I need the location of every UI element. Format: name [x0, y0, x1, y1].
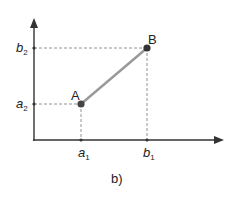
x-tick-a1: a1 [78, 146, 90, 159]
axes [33, 26, 215, 141]
point-b-label: B [148, 33, 157, 46]
diagram-canvas [0, 0, 231, 197]
figure-caption: b) [111, 172, 123, 185]
y-tick-a2: a2 [16, 97, 28, 110]
coordinate-diagram: A B b2 a2 a1 b1 b) [0, 0, 231, 197]
segment-ab [81, 48, 147, 104]
point-a-label: A [71, 89, 80, 102]
x-axis-arrow-icon [214, 136, 224, 144]
y-tick-b2: b2 [16, 41, 28, 54]
x-tick-b1: b1 [143, 146, 155, 159]
y-axis-arrow-icon [30, 18, 38, 28]
